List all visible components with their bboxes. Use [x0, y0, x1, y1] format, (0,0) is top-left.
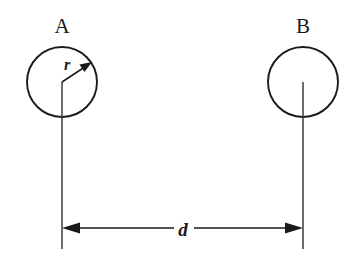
label-body-b: B	[296, 14, 310, 38]
radius-arrow-head	[80, 62, 93, 72]
diagram-canvas: A B r d	[0, 0, 353, 258]
label-distance-d: d	[178, 219, 188, 240]
diagram-svg: A B r d	[0, 0, 353, 258]
dimension-arrow-head-left	[62, 223, 80, 234]
label-body-a: A	[54, 14, 70, 38]
dimension-arrow-head-right	[285, 223, 303, 234]
label-radius-r: r	[64, 56, 71, 73]
